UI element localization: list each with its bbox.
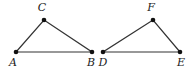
vertex-e-point [178, 50, 183, 55]
vertex-b-point [90, 50, 95, 55]
vertex-a-label: A [8, 56, 17, 69]
triangle-def: D E F [98, 1, 185, 69]
vertex-d-point [101, 50, 106, 55]
vertex-f-point [151, 18, 156, 23]
vertex-a-point [14, 50, 19, 55]
two-triangles-diagram: A B C D E F [0, 0, 190, 69]
vertex-c-label: C [38, 1, 47, 14]
triangle-abc: A B C [8, 1, 95, 69]
vertex-e-label: E [176, 56, 185, 69]
vertex-d-label: D [98, 56, 108, 69]
vertex-b-label: B [86, 56, 95, 69]
vertex-f-label: F [146, 1, 155, 14]
triangle-def-edges [103, 20, 180, 52]
vertex-c-point [42, 18, 47, 23]
triangle-abc-edges [16, 20, 92, 52]
